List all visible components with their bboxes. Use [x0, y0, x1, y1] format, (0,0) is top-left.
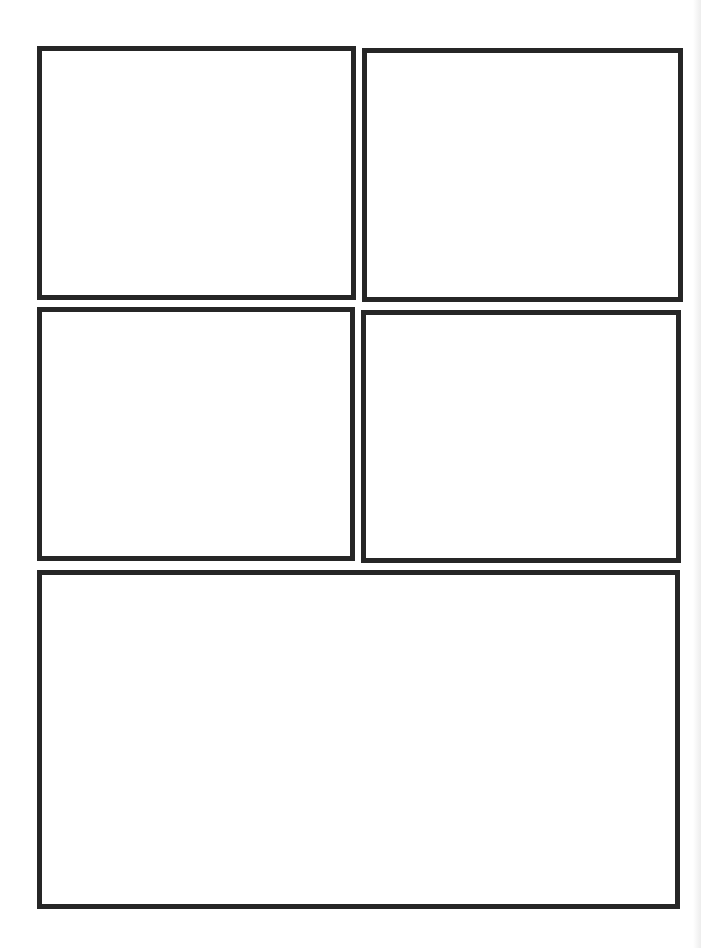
panel-middle-left [37, 307, 355, 561]
panel-middle-right [361, 310, 681, 563]
panel-top-right [362, 48, 683, 302]
comic-page: { "page": { "type": "comic-page-template… [0, 0, 701, 948]
panel-top-left [37, 46, 356, 300]
page-edge-shadow [693, 0, 701, 948]
panel-bottom-wide [37, 570, 680, 909]
